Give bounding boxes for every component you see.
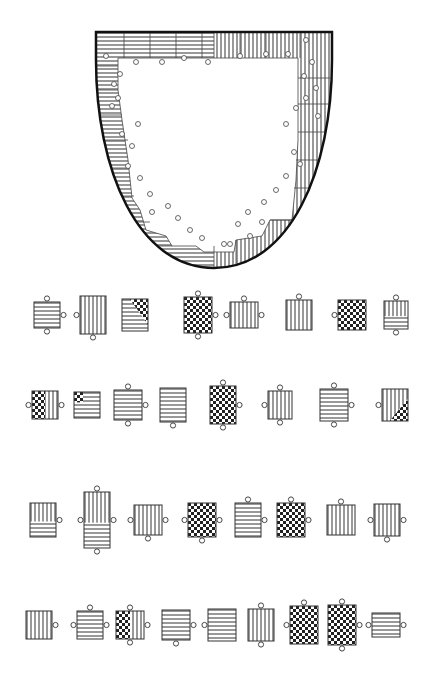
puzzle-piece[interactable] [22,495,64,545]
puzzle-piece[interactable] [126,497,170,543]
puzzle-piece[interactable] [374,381,416,429]
puzzle-piece[interactable] [76,484,118,556]
puzzle-piece[interactable] [106,382,150,428]
puzzle-piece[interactable] [18,603,60,647]
puzzle-piece[interactable] [154,602,198,648]
puzzle-piece[interactable] [364,605,408,645]
puzzle-piece[interactable] [26,294,68,336]
puzzle-piece[interactable] [312,381,356,429]
puzzle-piece[interactable] [320,597,364,653]
puzzle-piece[interactable] [227,495,269,545]
puzzle-piece[interactable] [152,380,194,430]
puzzle-piece[interactable] [222,294,266,336]
puzzle-piece[interactable] [69,603,111,647]
puzzle-piece[interactable] [176,289,220,341]
puzzle-piece[interactable] [330,292,374,338]
puzzle-piece[interactable] [240,601,282,649]
puzzle-piece[interactable] [66,384,108,426]
puzzle-piece[interactable] [72,288,114,342]
puzzle-piece[interactable] [260,383,300,427]
puzzle-piece[interactable] [319,497,363,543]
puzzle-piece[interactable] [202,378,244,432]
puzzle-piece[interactable] [114,291,156,339]
puzzle-piece[interactable] [24,383,66,427]
puzzle-piece[interactable] [376,293,416,337]
puzzle-diagram [0,0,433,678]
puzzle-piece[interactable] [108,603,152,647]
puzzle-piece[interactable] [180,495,224,545]
puzzle-piece[interactable] [269,495,313,545]
puzzle-piece[interactable] [278,292,320,338]
puzzle-piece[interactable] [200,601,244,649]
shield-fill [90,28,339,273]
puzzle-piece[interactable] [366,496,408,544]
